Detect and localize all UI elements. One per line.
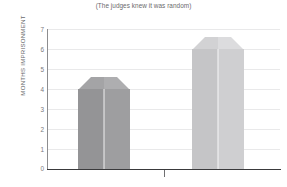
x-axis-tick-mark: [164, 170, 165, 177]
y-axis-tick-labels: 7 6 5 4 3 2 1 0: [28, 0, 44, 187]
plot-area: [47, 29, 280, 170]
gridline-5: [47, 69, 280, 70]
y-tick-label-7: 7: [30, 27, 44, 33]
y-tick-label-1: 1: [30, 147, 44, 153]
y-tick-label-6: 6: [30, 47, 44, 53]
bar-front-left-0: [78, 89, 104, 170]
bar-seam-0: [104, 89, 105, 170]
y-axis-title: MONTHS IMPRISONMENT: [19, 0, 26, 126]
bar-chart: (The judges knew it was random) MONTHS I…: [0, 0, 287, 187]
bar-front-left-1: [192, 49, 218, 170]
y-tick-label-4: 4: [30, 87, 44, 93]
bar-column-1: [192, 49, 244, 170]
bar-column-0: [78, 89, 130, 170]
gridline-6: [47, 49, 280, 50]
gridline-7: [47, 29, 280, 30]
y-tick-label-3: 3: [30, 107, 44, 113]
y-tick-label-5: 5: [30, 67, 44, 73]
bar-front-right-0: [104, 89, 130, 170]
y-tick-label-2: 2: [30, 127, 44, 133]
bar-seam-1: [218, 49, 219, 170]
bar-front-right-1: [218, 49, 244, 170]
y-axis-line: [47, 29, 48, 170]
y-tick-label-0: 0: [30, 166, 44, 172]
